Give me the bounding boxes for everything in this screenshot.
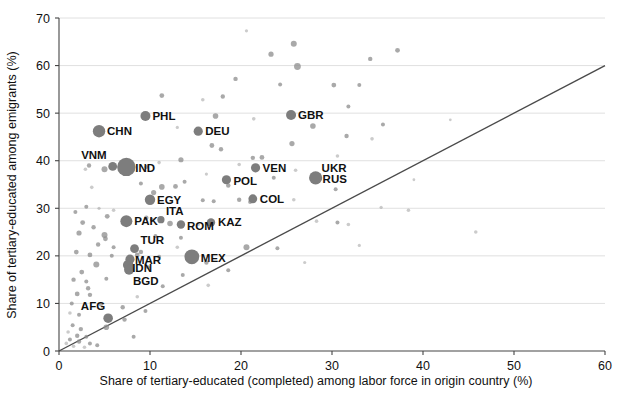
point-label-kaz: KAZ [218,216,242,228]
background-point [75,334,79,338]
background-point [68,338,72,342]
background-point [176,126,179,129]
background-point [103,236,108,241]
labeled-point-phl[interactable] [140,111,150,121]
background-point [209,143,214,148]
y-tick-label-60: 60 [36,59,50,73]
labeled-point-ven[interactable] [251,163,260,172]
x-tick-label-50: 50 [507,359,521,373]
labeled-point-pol[interactable] [222,175,231,184]
point-label-rom: ROM [187,220,214,232]
background-point [336,154,340,158]
background-point [139,182,143,186]
labeled-point-gbr[interactable] [286,110,296,120]
background-point [79,270,84,275]
background-point [74,250,79,255]
labeled-point-col[interactable] [248,194,257,203]
background-point [226,268,230,272]
background-point [178,157,183,162]
background-point [83,345,87,349]
background-point [233,77,237,81]
background-point [88,341,92,345]
labeled-point-chn[interactable] [93,125,105,137]
point-label-afg: AFG [81,300,105,312]
background-point [206,284,210,288]
background-point [173,184,178,189]
background-point [237,163,241,167]
background-point [260,155,265,160]
background-point [358,244,361,247]
x-tick-label-0: 0 [56,359,63,373]
x-tick-label-60: 60 [598,359,612,373]
background-point [344,134,348,138]
labeled-point-rus[interactable] [309,171,322,184]
x-tick-label-30: 30 [325,359,339,373]
point-label-mex: MEX [201,252,226,264]
point-label-chn: CHN [107,125,132,137]
background-point [315,219,319,223]
background-point [121,305,125,309]
scatter-chart: PHLCHNDEUGBRVNMINDVENPOLUKRRUSCOLEGYPAKI… [0,0,625,400]
point-label-deu: DEU [205,125,229,137]
labeled-point-egy[interactable] [145,195,155,205]
y-tick-label-70: 70 [36,12,50,26]
background-point [292,198,296,202]
background-point [237,198,241,202]
background-point [97,207,100,210]
labeled-point-afg[interactable] [103,313,113,323]
background-point [112,245,116,249]
point-label-ita: ITA [166,205,184,217]
background-point [122,317,126,321]
background-point [87,163,91,167]
x-axis-title: Share of tertiary-educated (completed) a… [100,374,533,388]
background-point [346,104,350,108]
labeled-data-points [93,110,322,323]
background-point [347,223,351,227]
background-point [71,277,75,281]
point-label-ind: IND [135,162,155,174]
background-point [179,236,183,240]
background-point [370,137,374,141]
background-point [335,221,339,225]
background-point [96,242,100,246]
background-point [86,286,90,290]
labeled-point-pak[interactable] [120,215,132,227]
background-point [112,208,116,212]
background-point [66,330,70,334]
background-point [159,184,165,190]
background-point [68,311,72,315]
background-point [132,335,136,339]
background-point [252,117,256,121]
point-label-pol: POL [233,175,257,187]
point-label-idn: IDN [132,262,152,274]
labeled-point-deu[interactable] [194,127,203,136]
x-tick-label-40: 40 [416,359,430,373]
labeled-point-mex[interactable] [184,249,199,264]
background-point [104,277,108,281]
background-point [181,273,185,277]
background-point [77,313,81,317]
point-label-gbr: GBR [298,109,324,121]
labeled-point-ind[interactable] [117,158,135,176]
background-point [84,335,88,339]
y-tick-label-40: 40 [36,154,50,168]
point-label-pak: PAK [134,215,158,227]
background-point [73,210,77,214]
background-point [79,327,83,331]
background-point [275,246,279,250]
labeled-point-tur[interactable] [130,244,139,253]
background-point [104,324,110,330]
labeled-point-rom[interactable] [177,220,185,228]
y-tick-label-50: 50 [36,107,50,121]
background-point [221,94,225,98]
background-point [84,205,88,209]
background-point [268,52,273,57]
background-point [183,180,187,184]
axes [55,18,605,355]
background-point [474,230,478,234]
labeled-point-ita[interactable] [157,216,164,223]
point-label-phl: PHL [152,110,175,122]
background-point [135,295,139,299]
labeled-point-vnm[interactable] [108,162,117,171]
background-point [201,98,205,102]
